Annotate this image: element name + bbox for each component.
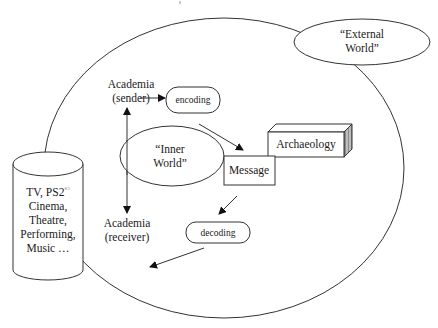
archaeology-node: Archaeology bbox=[268, 124, 352, 157]
archaeology-label: Archaeology bbox=[276, 138, 336, 151]
media-label-5: Music … bbox=[26, 242, 69, 254]
media-label-4: Performing, bbox=[20, 228, 75, 241]
media-label-2: Cinema, bbox=[29, 200, 68, 213]
receiver-label-1: Academia bbox=[104, 217, 151, 229]
media-label-1: TV, PS2© bbox=[26, 185, 70, 199]
inner-world-node: “Inner World” bbox=[120, 126, 224, 186]
decoding-label: decoding bbox=[201, 228, 236, 238]
inner-world-label-1: “Inner bbox=[155, 143, 185, 155]
encoding-node: encoding bbox=[166, 87, 220, 113]
receiver-label-2: (receiver) bbox=[105, 231, 150, 244]
encoding-label: encoding bbox=[176, 95, 211, 105]
message-to-decoding-arrow bbox=[219, 196, 237, 214]
inner-world-label-2: World” bbox=[153, 157, 187, 169]
receiver-node: Academia (receiver) bbox=[104, 217, 151, 244]
communication-diagram: “External World” Academia (sender) encod… bbox=[0, 0, 438, 328]
external-world-node: “External World” bbox=[294, 19, 430, 65]
external-world-label-1: “External bbox=[340, 28, 384, 40]
media-label-3: Theatre, bbox=[29, 214, 67, 227]
inner-world-ellipse bbox=[120, 126, 224, 186]
message-label: Message bbox=[229, 164, 269, 177]
sender-node: Academia (sender) bbox=[108, 78, 155, 105]
media-cylinder-top bbox=[13, 152, 83, 176]
message-node: Message bbox=[224, 156, 275, 185]
decoding-node: decoding bbox=[186, 222, 250, 243]
media-cylinder-node: TV, PS2© Cinema, Theatre, Performing, Mu… bbox=[13, 152, 83, 280]
decoding-to-media-arrow bbox=[150, 248, 204, 267]
sender-label-1: Academia bbox=[108, 78, 155, 90]
archaeology-top-face bbox=[268, 124, 352, 132]
external-world-label-2: World” bbox=[345, 42, 379, 54]
